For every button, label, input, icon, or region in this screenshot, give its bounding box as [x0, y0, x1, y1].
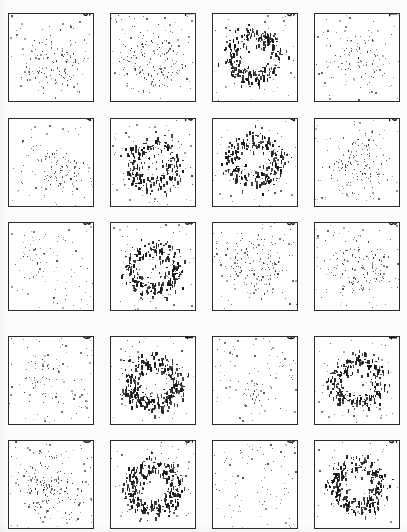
data-point — [341, 365, 342, 367]
data-point — [31, 481, 32, 482]
noise-point — [58, 471, 59, 472]
data-point — [364, 359, 366, 360]
data-point — [44, 482, 45, 483]
noise-point — [165, 224, 167, 226]
data-point — [135, 185, 137, 187]
noise-point — [31, 231, 32, 232]
data-point — [137, 399, 139, 402]
data-point — [352, 372, 353, 375]
noise-point — [86, 348, 87, 349]
data-point — [367, 373, 369, 377]
data-point — [376, 70, 377, 71]
data-point — [252, 135, 254, 139]
data-point — [260, 258, 261, 260]
data-point — [172, 140, 173, 141]
data-point — [254, 33, 255, 37]
data-point — [132, 147, 134, 151]
noise-point — [236, 355, 238, 357]
data-point — [238, 138, 240, 140]
data-point — [358, 139, 359, 140]
noise-point — [35, 356, 36, 357]
data-point — [76, 180, 77, 181]
data-point — [340, 379, 342, 383]
data-point — [262, 268, 263, 269]
noise-point — [120, 359, 122, 361]
data-point — [261, 48, 262, 50]
noise-point — [397, 131, 398, 132]
panel-number-10: 10 — [285, 440, 296, 443]
noise-point — [28, 155, 29, 156]
data-point — [128, 384, 129, 387]
noise-point — [388, 362, 389, 363]
data-point — [35, 368, 36, 369]
data-point — [26, 471, 27, 472]
data-point — [46, 501, 47, 503]
data-point — [352, 292, 353, 293]
data-point — [359, 249, 360, 250]
data-point — [46, 489, 47, 490]
noise-point — [24, 38, 26, 40]
data-point — [29, 401, 30, 402]
noise-point — [62, 307, 64, 309]
data-point — [374, 71, 375, 73]
data-point — [60, 172, 61, 173]
noise-point — [334, 232, 335, 233]
data-point — [373, 140, 374, 141]
data-point — [141, 354, 143, 358]
noise-point — [118, 15, 119, 16]
data-point — [267, 63, 269, 65]
data-point — [281, 160, 282, 164]
data-point — [361, 511, 363, 515]
data-point — [141, 49, 142, 50]
noise-point — [389, 63, 390, 64]
data-point — [153, 462, 155, 463]
data-point — [275, 271, 276, 272]
noise-point — [25, 503, 26, 504]
noise-point — [288, 474, 289, 475]
data-point — [329, 394, 330, 397]
data-point — [235, 271, 236, 272]
data-point — [159, 272, 160, 274]
data-point — [251, 82, 253, 85]
data-point — [140, 482, 141, 486]
noise-point — [389, 86, 390, 87]
data-point — [273, 267, 274, 269]
data-point — [133, 474, 135, 477]
noise-point — [122, 236, 123, 237]
noise-point — [173, 343, 174, 344]
data-point — [176, 161, 178, 162]
noise-point — [362, 384, 364, 386]
data-point — [38, 513, 39, 514]
noise-point — [351, 48, 352, 49]
noise-point — [121, 398, 123, 400]
noise-point — [326, 19, 327, 20]
data-point — [364, 187, 365, 189]
noise-point — [220, 365, 221, 366]
data-point — [330, 380, 331, 383]
noise-point — [43, 271, 44, 272]
noise-point — [247, 292, 248, 293]
noise-point — [366, 200, 367, 201]
data-point — [272, 265, 273, 266]
data-point — [241, 176, 242, 179]
data-point — [230, 276, 231, 277]
data-point — [179, 249, 180, 253]
data-point — [49, 379, 50, 380]
noise-point — [315, 391, 316, 392]
data-point — [44, 179, 45, 180]
noise-point — [27, 293, 29, 295]
data-point — [337, 478, 338, 479]
data-point — [332, 376, 333, 379]
data-point — [173, 506, 174, 507]
data-point — [375, 273, 376, 274]
data-point — [342, 295, 343, 296]
data-point — [160, 178, 161, 180]
noise-point — [366, 415, 368, 417]
noise-point — [368, 139, 370, 141]
data-point — [54, 489, 55, 491]
noise-point — [55, 289, 56, 290]
noise-point — [376, 49, 377, 50]
data-point — [362, 353, 363, 356]
data-point — [369, 167, 370, 169]
data-point — [174, 377, 175, 380]
